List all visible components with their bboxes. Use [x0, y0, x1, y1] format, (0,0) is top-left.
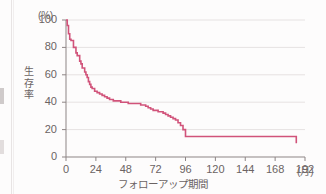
x-tick-label: 168 [260, 163, 290, 175]
y-tick-label: 60 [33, 68, 57, 80]
survival-curve-figure: (%) 生存率 020406080100 0244872961201441681… [0, 0, 326, 194]
x-axis-title: フォローアップ期間 [0, 176, 326, 191]
x-tick-label: 0 [51, 163, 81, 175]
gridlines [66, 20, 305, 130]
x-tick-marks [66, 157, 305, 161]
survival-curve-line [66, 20, 296, 143]
y-tick-marks [62, 20, 66, 157]
y-tick-label: 0 [33, 150, 57, 162]
x-tick-label: 24 [81, 163, 111, 175]
y-tick-label: 100 [33, 13, 57, 25]
y-tick-label: 40 [33, 95, 57, 107]
x-tick-label: 120 [200, 163, 230, 175]
x-tick-label: 72 [141, 163, 171, 175]
x-tick-label: 96 [171, 163, 201, 175]
y-tick-label: 80 [33, 40, 57, 52]
x-tick-label: 144 [230, 163, 260, 175]
y-tick-label: 20 [33, 123, 57, 135]
x-tick-label: 48 [111, 163, 141, 175]
